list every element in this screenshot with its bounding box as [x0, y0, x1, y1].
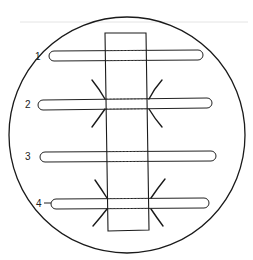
rod-2-body — [38, 98, 212, 110]
rod-4-body — [51, 198, 209, 209]
rod-2-label: 2 — [25, 99, 31, 110]
rod-1-body — [49, 50, 203, 61]
rod-3-body — [40, 151, 216, 162]
ray-2-top-right — [149, 80, 162, 99]
ray-4-top-right — [151, 179, 165, 198]
field-of-view-circle — [9, 17, 245, 253]
ray-2-bottom-right — [149, 109, 162, 127]
ray-4-bottom-right — [151, 209, 163, 226]
rod-3: 3 — [25, 151, 216, 162]
rod-4-label: 4 — [36, 198, 42, 209]
rod-4: 4 — [36, 179, 209, 226]
rod-1: 1 — [35, 50, 203, 62]
rod-1-label: 1 — [35, 51, 41, 62]
diagram-figure: 1 2 3 4 — [0, 0, 253, 260]
ray-4-top-left — [95, 180, 107, 198]
rod-3-label: 3 — [25, 151, 31, 162]
ray-2-top-left — [92, 80, 105, 99]
vertical-strip — [105, 33, 149, 231]
ray-2-bottom-left — [92, 109, 105, 127]
rod-2: 2 — [25, 80, 212, 127]
ray-4-bottom-left — [93, 209, 107, 226]
